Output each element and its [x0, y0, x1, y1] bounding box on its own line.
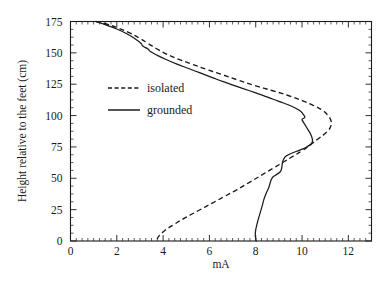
x-tick-label: 4: [160, 245, 166, 257]
plot-frame: [71, 22, 372, 242]
x-axis-tick-labels: 024681012: [68, 245, 355, 257]
x-tick-label: 10: [296, 245, 308, 257]
chart-legend: isolated grounded: [108, 81, 192, 117]
series-isolated: [96, 22, 331, 240]
axis-ticks: [71, 22, 372, 242]
x-tick-label: 0: [68, 245, 74, 257]
y-tick-label: 0: [57, 235, 63, 247]
chart-figure: 024681012 0255075100125150175 mA Height …: [0, 0, 389, 281]
y-tick-label: 50: [51, 172, 63, 184]
y-tick-label: 125: [45, 78, 63, 90]
y-tick-label: 175: [45, 16, 63, 28]
x-tick-label: 8: [253, 245, 259, 257]
y-axis-title: Height relative to the feet (cm): [16, 60, 29, 202]
legend-label-isolated: isolated: [147, 81, 184, 95]
y-tick-label: 75: [51, 141, 63, 153]
x-tick-label: 6: [207, 245, 213, 257]
x-tick-label: 12: [343, 245, 355, 257]
y-tick-label: 150: [45, 47, 63, 59]
line-chart: 024681012 0255075100125150175 mA Height …: [0, 0, 389, 281]
series-grounded: [96, 22, 313, 242]
y-tick-label: 25: [51, 204, 63, 216]
data-series-group: [96, 22, 331, 242]
y-axis-tick-labels: 0255075100125150175: [45, 16, 63, 248]
x-axis-title: mA: [212, 258, 230, 270]
x-tick-label: 2: [114, 245, 120, 257]
y-tick-label: 100: [45, 110, 63, 122]
legend-label-grounded: grounded: [147, 103, 192, 117]
